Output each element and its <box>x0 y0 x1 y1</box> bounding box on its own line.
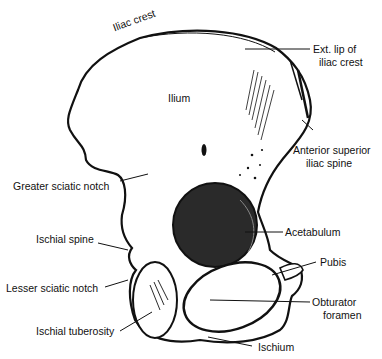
label-lesser-sciatic-notch: Lesser sciatic notch <box>6 282 98 294</box>
ischial-tuberosity <box>133 262 177 338</box>
nutrient-foramen <box>202 144 207 156</box>
label-ilium: Ilium <box>168 92 190 104</box>
label-ischium: Ischium <box>258 341 294 353</box>
label-asis-line2: iliac spine <box>306 157 352 169</box>
label-asis-line1: Anterior superior <box>293 144 371 156</box>
label-pubis: Pubis <box>320 256 346 268</box>
label-greater-sciatic-notch: Greater sciatic notch <box>13 180 109 192</box>
label-ischial-tuberosity: Ischial tuberosity <box>36 325 114 337</box>
label-obturator-line1: Obturator <box>312 296 356 308</box>
label-ext-lip-line1: Ext. lip of <box>313 43 356 55</box>
label-acetabulum: Acetabulum <box>285 226 340 238</box>
label-obturator-line2: foramen <box>323 309 362 321</box>
acetabulum <box>173 183 257 267</box>
label-ext-lip-line2: iliac crest <box>319 56 363 68</box>
label-ischial-spine: Ischial spine <box>36 233 94 245</box>
